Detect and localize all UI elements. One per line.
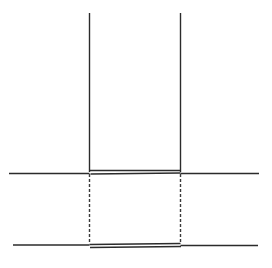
line-drawing-svg: Technical line drawing — vertical member…	[0, 0, 272, 268]
figure-background	[0, 0, 272, 268]
lower-member-base-inner	[90, 247, 181, 248]
lower-member-base-outer	[90, 244, 181, 245]
figure-canvas: Technical line drawing — vertical member…	[0, 0, 272, 268]
upper-member-base-inner	[91, 173, 181, 174]
